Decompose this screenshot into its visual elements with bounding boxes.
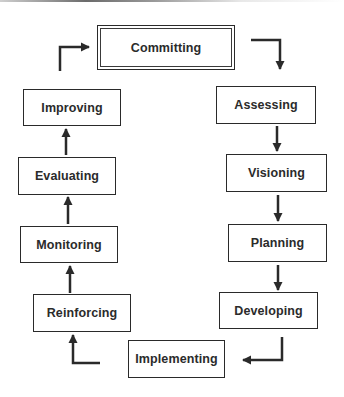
stage-label: Developing [234,304,302,318]
stage-assessing: Assessing [216,86,316,124]
stage-label: Visioning [248,166,305,180]
stage-label: Reinforcing [47,306,118,320]
stage-label: Improving [41,101,102,115]
stage-evaluating: Evaluating [18,157,116,195]
stage-reinforcing: Reinforcing [33,294,131,332]
stage-label: Assessing [234,98,297,112]
stage-improving: Improving [23,89,121,126]
stage-committing: Committing [97,25,235,70]
arrow-implementing-to-reinforcing [73,335,100,363]
stage-developing: Developing [219,292,318,329]
stage-label: Planning [251,236,305,250]
arrow-improving-to-committing [60,47,89,71]
stage-monitoring: Monitoring [20,226,118,263]
stage-label: Monitoring [36,238,102,252]
stage-visioning: Visioning [226,154,327,192]
stage-label: Committing [131,41,201,55]
arrow-developing-to-implementing [243,337,282,360]
stage-planning: Planning [228,224,327,262]
stage-label: Evaluating [35,169,99,183]
stage-label: Implementing [135,352,217,366]
stage-implementing: Implementing [128,340,225,378]
arrow-committing-to-assessing [251,40,280,69]
